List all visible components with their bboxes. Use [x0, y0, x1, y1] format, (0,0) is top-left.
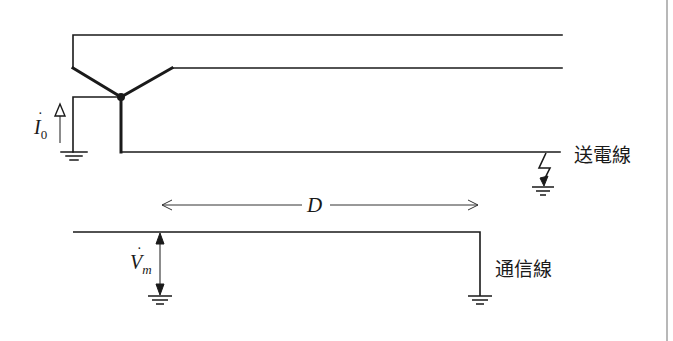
distance-label: D [305, 193, 324, 218]
current-label: ·I0 [34, 116, 47, 143]
voltage-arrow-head-down [156, 284, 164, 295]
power-line-label: 送電線 [574, 140, 631, 167]
neutral-ground-lead [73, 97, 121, 152]
neutral-ground-icon [61, 152, 87, 160]
voltage-arrow-head-up [156, 233, 164, 244]
fault-ground-icon [532, 187, 554, 195]
circuit-diagram [0, 0, 673, 341]
fault-arrow-head [540, 176, 548, 186]
comm-ground-left-icon [148, 296, 172, 304]
comm-ground-right-icon [468, 296, 492, 304]
frame-border [666, 0, 668, 341]
comm-line-label: 通信線 [495, 254, 552, 281]
power-conductor-top [73, 35, 562, 68]
star-connection [73, 68, 172, 97]
junction-dot [117, 93, 125, 101]
voltage-label: ·Vm [130, 251, 152, 278]
current-arrow-head [55, 104, 65, 116]
